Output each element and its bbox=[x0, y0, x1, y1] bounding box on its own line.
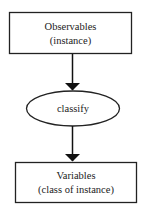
node-observables-label: Observables bbox=[45, 21, 97, 32]
flow-diagram: Observables (instance) classify Variable… bbox=[0, 0, 146, 213]
node-variables-box bbox=[16, 163, 137, 203]
node-observables-box bbox=[10, 13, 132, 54]
node-classify: classify bbox=[27, 91, 120, 126]
node-observables: Observables (instance) bbox=[10, 13, 132, 54]
node-variables-sublabel: (class of instance) bbox=[38, 184, 114, 196]
node-classify-label: classify bbox=[57, 103, 90, 114]
node-observables-sublabel: (instance) bbox=[50, 35, 92, 47]
node-variables-label: Variables bbox=[56, 170, 95, 181]
node-variables: Variables (class of instance) bbox=[16, 163, 137, 203]
